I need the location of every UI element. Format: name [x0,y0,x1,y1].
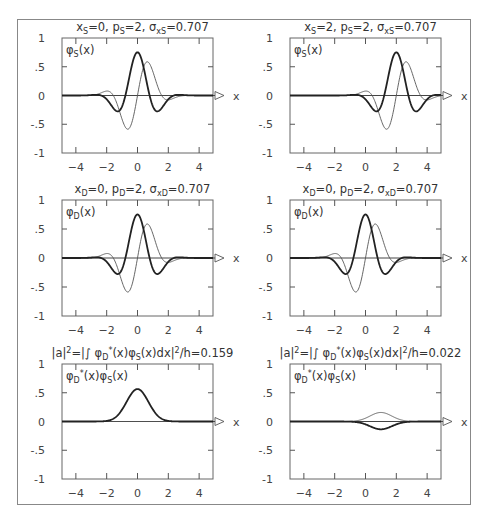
y-tick-label: 1 [38,358,45,371]
y-tick-label: .5 [263,61,274,74]
x-tick-label: 2 [165,487,172,500]
x-tick-label: −2 [99,161,115,174]
y-tick-label: .5 [35,223,46,236]
x-tick-label: 0 [362,161,369,174]
y-tick-label: -.5 [259,118,273,131]
plot-title: xD=0, pD=2, σxD=0.707 [75,182,211,198]
x-axis-label: x [461,416,468,429]
y-tick-label: -.5 [259,444,273,457]
y-tick-label: -1 [262,310,273,323]
x-tick-label: −4 [296,487,312,500]
x-tick-label: 2 [393,487,400,500]
plot-title: xS=0, pS=2, σxS=0.707 [76,20,208,36]
x-tick-label: 4 [424,161,431,174]
y-tick-label: .5 [35,61,46,74]
x-axis-arrow-icon [215,254,224,262]
x-axis-arrow-icon [215,418,224,426]
curve-re [62,52,213,111]
curve-im [290,412,441,421]
y-tick-label: -1 [34,473,45,486]
plot-bottom-right: |a|2=|∫ φD*(x)φS(x)dx|2/h=0.0221.50-.5-1… [259,346,468,500]
y-tick-label: -.5 [31,118,45,131]
y-tick-label: -1 [34,147,45,160]
function-label: φD*(x)φS(x) [294,369,356,385]
plot-bottom-left: |a|2=|∫ φD*(x)φS(x)dx|2/h=0.1591.50-.5-1… [31,346,240,500]
function-label: φD*(x)φS(x) [66,369,128,385]
y-tick-label: 0 [266,416,273,429]
plot-title: xS=2, pS=2, σxS=0.707 [304,20,436,36]
curve-re [290,422,441,430]
x-tick-label: −2 [99,487,115,500]
x-tick-label: 0 [134,161,141,174]
x-tick-label: −4 [68,161,84,174]
x-tick-label: −2 [327,324,343,337]
y-tick-label: 0 [38,416,45,429]
x-tick-label: 0 [362,487,369,500]
x-axis-label: x [461,252,468,265]
x-tick-label: −4 [68,324,84,337]
curve-re [290,214,441,274]
y-tick-label: .5 [263,223,274,236]
x-tick-label: 4 [424,487,431,500]
curve-re [62,389,213,421]
x-tick-label: −4 [296,161,312,174]
x-axis-arrow-icon [443,418,452,426]
x-tick-label: 0 [134,487,141,500]
plot-title: |a|2=|∫ φD*(x)φS(x)dx|2/h=0.022 [280,346,462,362]
y-tick-label: -.5 [31,444,45,457]
function-label: φD(x) [294,205,324,221]
y-tick-label: -.5 [31,281,45,294]
x-tick-label: 0 [362,324,369,337]
x-axis-arrow-icon [443,92,452,100]
x-tick-label: 2 [165,324,172,337]
x-tick-label: −2 [327,487,343,500]
x-axis-arrow-icon [215,92,224,100]
x-tick-label: −2 [327,161,343,174]
y-tick-label: 1 [266,358,273,371]
y-tick-label: 1 [38,32,45,45]
function-label: φD(x) [66,205,96,221]
y-tick-label: 1 [38,194,45,207]
y-tick-label: 0 [38,252,45,265]
y-tick-label: 0 [266,252,273,265]
x-tick-label: −4 [296,324,312,337]
function-label: φS(x) [66,43,94,59]
x-axis-arrow-icon [443,254,452,262]
y-tick-label: -1 [262,147,273,160]
y-tick-label: 1 [266,32,273,45]
x-tick-label: −4 [68,487,84,500]
plot-title: xD=0, pD=2, σxD=0.707 [303,182,439,198]
curve-re [62,214,213,274]
x-tick-label: 4 [196,487,203,500]
y-tick-label: 1 [266,194,273,207]
x-tick-label: 2 [165,161,172,174]
x-axis-label: x [233,252,240,265]
y-tick-label: -1 [262,473,273,486]
plot-title: |a|2=|∫ φD*(x)φS(x)dx|2/h=0.159 [52,346,234,362]
figure-canvas: xS=0, pS=2, σxS=0.7071.50-.5-1−4−2024xφS… [0,0,486,521]
plot-top-left: xS=0, pS=2, σxS=0.7071.50-.5-1−4−2024xφS… [31,20,240,174]
x-tick-label: 0 [134,324,141,337]
x-tick-label: 4 [424,324,431,337]
x-tick-label: −2 [99,324,115,337]
y-tick-label: -1 [34,310,45,323]
plot-middle-right: xD=0, pD=2, σxD=0.7071.50-.5-1−4−2024xφD… [259,182,468,337]
plot-top-right: xS=2, pS=2, σxS=0.7071.50-.5-1−4−2024xφS… [259,20,468,174]
x-tick-label: 2 [393,161,400,174]
y-tick-label: .5 [263,387,274,400]
x-axis-label: x [233,416,240,429]
plot-middle-left: xD=0, pD=2, σxD=0.7071.50-.5-1−4−2024xφD… [31,182,240,337]
x-tick-label: 4 [196,161,203,174]
curve-re [290,52,441,111]
function-label: φS(x) [294,43,322,59]
y-tick-label: 0 [266,90,273,103]
y-tick-label: 0 [38,90,45,103]
x-axis-label: x [461,90,468,103]
y-tick-label: -.5 [259,281,273,294]
x-tick-label: 2 [393,324,400,337]
x-axis-label: x [233,90,240,103]
y-tick-label: .5 [35,387,46,400]
x-tick-label: 4 [196,324,203,337]
